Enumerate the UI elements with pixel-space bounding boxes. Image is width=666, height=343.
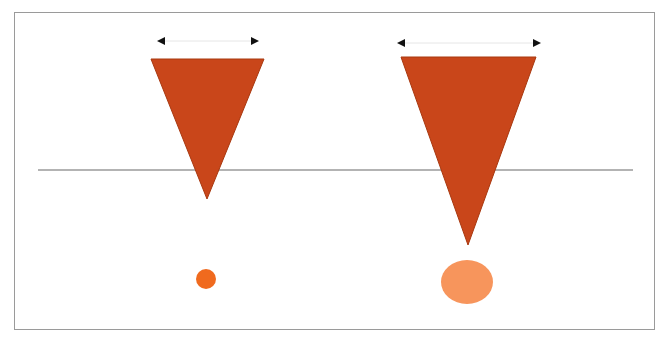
inverted-triangle-right bbox=[401, 57, 536, 245]
diagram-canvas bbox=[0, 0, 666, 343]
inverted-triangle-left bbox=[151, 59, 264, 199]
small-circle bbox=[196, 269, 216, 289]
large-circle bbox=[441, 260, 493, 304]
